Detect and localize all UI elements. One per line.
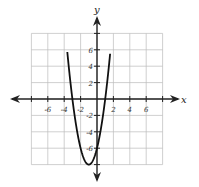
y-tick-label: 2 (88, 80, 94, 88)
y-tick-label: -2 (86, 112, 93, 120)
y-axis-label: y (94, 4, 100, 15)
x-tick-label: -2 (77, 106, 84, 114)
x-tick-label: -4 (61, 106, 68, 114)
x-tick-label: 6 (144, 106, 149, 114)
y-tick-label: 6 (89, 47, 94, 55)
x-tick-label: 2 (110, 106, 116, 114)
x-tick-label: -6 (44, 106, 51, 114)
y-tick-label: 4 (88, 63, 93, 71)
y-tick-label: -6 (86, 145, 93, 153)
x-tick-label: 4 (127, 106, 132, 114)
x-axis-label: x (181, 94, 187, 105)
y-tick-label: -4 (86, 129, 93, 137)
parabola-graph: -6-4-2246642-2-4-6 (0, 0, 199, 187)
